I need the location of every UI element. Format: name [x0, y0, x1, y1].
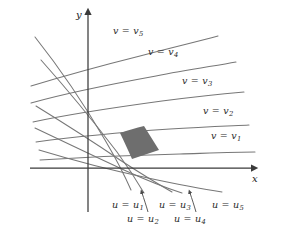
u-curve-label-4-subscript: 4	[201, 218, 206, 226]
v-curve-label-2-subscript: 4	[174, 51, 179, 59]
v-curve-label-1-subscript: 5	[139, 30, 144, 38]
v-curve-label-1: v = v5	[113, 26, 143, 36]
v-curve-label-5: v = v1	[211, 131, 241, 141]
y-axis-label: y	[76, 10, 82, 20]
v-curve-label-3-subscript: 3	[208, 80, 213, 88]
u-curve-label-4: u = u4	[174, 214, 206, 224]
v-curve-label-4-subscript: 2	[229, 110, 234, 118]
x-axis-label: x	[252, 174, 258, 184]
v-curve-label-5-subscript: 1	[237, 135, 242, 143]
u-curve-group	[35, 37, 222, 193]
u-curve-4	[35, 128, 182, 193]
v-curve-label-3: v = v3	[182, 76, 212, 86]
u-curve-label-3-subscript: 3	[186, 204, 191, 212]
u-curve-label-5-subscript: 5	[239, 204, 244, 212]
v-curve-label-2: v = v4	[148, 47, 178, 57]
v-curve-label-4: v = v2	[203, 106, 233, 116]
shaded-region	[120, 126, 159, 159]
curvilinear-coordinates-figure: x y v = v5v = v4v = v3v = v2v = v1 u = u…	[0, 0, 286, 247]
u-curve-label-1: u = u1	[112, 200, 144, 210]
u-curve-label-2: u = u2	[127, 214, 159, 224]
u-curve-label-3: u = u3	[159, 200, 191, 210]
u-curve-label-5: u = u5	[212, 200, 244, 210]
u-curve-label-1-subscript: 1	[139, 204, 144, 212]
u-curve-2	[41, 60, 144, 193]
u-curve-label-2-subscript: 2	[154, 218, 159, 226]
